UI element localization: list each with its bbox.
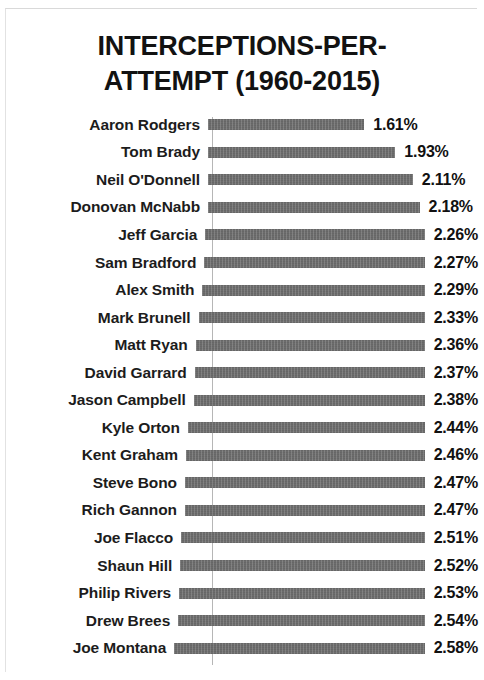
bar-track: 2.54% xyxy=(178,607,478,635)
bar-row: Philip Rivers2.53% xyxy=(6,579,478,607)
bar-row: Kent Graham2.46% xyxy=(6,442,478,470)
bar-category-label: Jason Campbell xyxy=(6,391,194,409)
bar-track: 2.47% xyxy=(185,497,478,525)
bar-value-label: 2.46% xyxy=(434,446,478,464)
bar-row: Neil O'Donnell2.11% xyxy=(6,166,478,194)
bar-rows: Aaron Rodgers1.61%Tom Brady1.93%Neil O'D… xyxy=(6,111,478,662)
bar-track: 1.61% xyxy=(208,111,478,139)
bar-value-label: 2.36% xyxy=(434,336,478,354)
bar-category-label: Philip Rivers xyxy=(6,584,179,602)
bar-category-label: Neil O'Donnell xyxy=(6,171,208,189)
bar-value-label: 2.37% xyxy=(434,364,478,382)
bar-value-label: 2.47% xyxy=(434,474,478,492)
bar-category-label: Kent Graham xyxy=(6,446,186,464)
bar-row: Tom Brady1.93% xyxy=(6,139,478,167)
bar-value-label: 2.11% xyxy=(422,171,466,189)
bar-track: 2.51% xyxy=(181,524,478,552)
bar-row: Rich Gannon2.47% xyxy=(6,497,478,525)
bar-track: 2.52% xyxy=(180,552,478,580)
bar xyxy=(185,505,425,516)
bar-category-label: Matt Ryan xyxy=(6,336,196,354)
bar-value-label: 2.53% xyxy=(434,584,478,602)
bar-category-label: Shaun Hill xyxy=(6,557,180,575)
bar-value-label: 2.52% xyxy=(434,557,478,575)
chart-title-line-2: ATTEMPT (1960-2015) xyxy=(6,64,478,99)
bar xyxy=(194,395,425,406)
bar-row: Jason Campbell2.38% xyxy=(6,386,478,414)
bar-track: 2.18% xyxy=(208,194,478,222)
bar-category-label: Rich Gannon xyxy=(6,501,185,519)
bar-category-label: Donovan McNabb xyxy=(6,198,208,216)
bar-track: 2.36% xyxy=(196,331,478,359)
bar xyxy=(188,422,425,433)
bar-category-label: Sam Bradford xyxy=(6,254,204,272)
bar xyxy=(208,119,364,130)
bar-row: Joe Montana2.58% xyxy=(6,634,478,662)
bar-track: 2.27% xyxy=(204,249,478,277)
bar-track: 2.44% xyxy=(188,414,478,442)
bar-track: 2.11% xyxy=(208,166,478,194)
bar-value-label: 2.58% xyxy=(434,639,478,657)
bar-track: 2.29% xyxy=(202,276,478,304)
bar-value-label: 2.47% xyxy=(434,501,478,519)
bar-category-label: Mark Brunell xyxy=(6,309,199,327)
bar-row: Donovan McNabb2.18% xyxy=(6,194,478,222)
bar xyxy=(179,588,425,599)
bar-row: Jeff Garcia2.26% xyxy=(6,221,478,249)
bar-row: Aaron Rodgers1.61% xyxy=(6,111,478,139)
bar-category-label: Joe Montana xyxy=(6,639,174,657)
chart-frame: INTERCEPTIONS-PER- ATTEMPT (1960-2015) A… xyxy=(5,8,477,672)
bar-track: 2.53% xyxy=(179,579,478,607)
bar xyxy=(186,450,425,461)
bar-row: Joe Flacco2.51% xyxy=(6,524,478,552)
bar xyxy=(208,147,395,158)
bar-row: Kyle Orton2.44% xyxy=(6,414,478,442)
bar-value-label: 2.44% xyxy=(434,419,478,437)
bar xyxy=(180,560,425,571)
bar xyxy=(208,202,420,213)
bar-category-label: Alex Smith xyxy=(6,281,202,299)
chart-title-line-1: INTERCEPTIONS-PER- xyxy=(6,29,478,64)
bar xyxy=(196,340,425,351)
bar-value-label: 2.51% xyxy=(434,529,478,547)
bar-value-label: 2.29% xyxy=(434,281,478,299)
bar-category-label: Drew Brees xyxy=(6,612,178,630)
bar xyxy=(181,532,425,543)
bar-row: Alex Smith2.29% xyxy=(6,276,478,304)
bar-row: Mark Brunell2.33% xyxy=(6,304,478,332)
bar-track: 2.47% xyxy=(185,469,478,497)
bar-track: 2.38% xyxy=(194,386,478,414)
bar-category-label: Joe Flacco xyxy=(6,529,181,547)
bar-track: 2.37% xyxy=(195,359,478,387)
bar-value-label: 2.38% xyxy=(434,391,478,409)
bar-category-label: Steve Bono xyxy=(6,474,185,492)
bar-category-label: Kyle Orton xyxy=(6,419,188,437)
bar-value-label: 1.61% xyxy=(373,116,417,134)
bar-track: 2.46% xyxy=(186,442,478,470)
bar-category-label: David Garrard xyxy=(6,364,195,382)
bar-row: Drew Brees2.54% xyxy=(6,607,478,635)
bar xyxy=(199,312,425,323)
bar-row: Matt Ryan2.36% xyxy=(6,331,478,359)
bar-chart-plot-area: Aaron Rodgers1.61%Tom Brady1.93%Neil O'D… xyxy=(6,111,478,669)
bar-value-label: 2.26% xyxy=(434,226,478,244)
bar xyxy=(185,477,425,488)
bar-category-label: Jeff Garcia xyxy=(6,226,205,244)
bar-category-label: Aaron Rodgers xyxy=(6,116,208,134)
bar xyxy=(174,643,424,654)
bar xyxy=(205,229,424,240)
bar-row: Steve Bono2.47% xyxy=(6,469,478,497)
bar-category-label: Tom Brady xyxy=(6,143,208,161)
bar-value-label: 2.18% xyxy=(429,198,473,216)
bar-track: 1.93% xyxy=(208,139,478,167)
bar-value-label: 2.33% xyxy=(434,309,478,327)
bar-value-label: 2.54% xyxy=(434,612,478,630)
bar-track: 2.26% xyxy=(205,221,478,249)
bar xyxy=(204,257,424,268)
bar-track: 2.58% xyxy=(174,634,478,662)
bar-value-label: 2.27% xyxy=(434,254,478,272)
bar xyxy=(195,367,425,378)
bar-row: Shaun Hill2.52% xyxy=(6,552,478,580)
bar-value-label: 1.93% xyxy=(404,143,448,161)
chart-title: INTERCEPTIONS-PER- ATTEMPT (1960-2015) xyxy=(6,29,478,98)
